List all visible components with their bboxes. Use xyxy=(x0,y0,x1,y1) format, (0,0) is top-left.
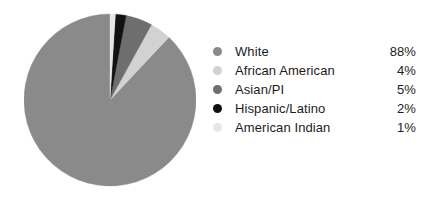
legend-item[interactable]: Hispanic/Latino2% xyxy=(210,99,422,118)
legend-value: 1% xyxy=(378,118,422,137)
chart-legend: White88%African American4%Asian/PI5%Hisp… xyxy=(210,42,422,137)
legend-swatch-icon xyxy=(213,47,222,56)
legend-label: Asian/PI xyxy=(235,80,378,99)
legend-swatch-icon xyxy=(213,66,222,75)
pie-chart-graphic xyxy=(24,10,196,191)
legend-value: 2% xyxy=(378,99,422,118)
legend-label: American Indian xyxy=(235,118,378,137)
legend-item[interactable]: American Indian1% xyxy=(210,118,422,137)
legend-label: White xyxy=(235,42,378,61)
legend-label: African American xyxy=(235,61,378,80)
legend-value: 88% xyxy=(378,42,422,61)
legend-swatch-icon xyxy=(213,104,222,113)
pie-svg xyxy=(24,10,196,191)
legend-swatch-icon xyxy=(213,123,222,132)
legend-swatch-icon xyxy=(213,85,222,94)
legend-item[interactable]: Asian/PI5% xyxy=(210,80,422,99)
legend-label: Hispanic/Latino xyxy=(235,99,378,118)
pie-chart-figure: White88%African American4%Asian/PI5%Hisp… xyxy=(0,0,430,205)
legend-item[interactable]: White88% xyxy=(210,42,422,61)
pie-slice-group xyxy=(24,14,196,186)
legend-value: 5% xyxy=(378,80,422,99)
legend-value: 4% xyxy=(378,61,422,80)
legend-item[interactable]: African American4% xyxy=(210,61,422,80)
